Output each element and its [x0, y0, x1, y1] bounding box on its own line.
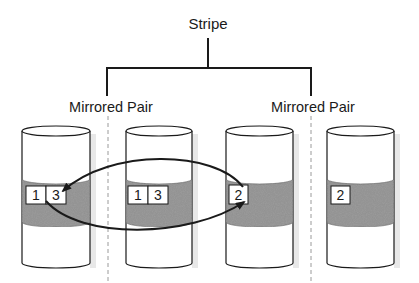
disk-3: 2: [226, 126, 299, 268]
svg-text:3: 3: [52, 187, 60, 203]
disk-top: [226, 126, 293, 136]
mirrored-pair-label-1: Mirrored Pair: [69, 99, 153, 115]
disk-1: 1 3: [22, 126, 96, 268]
block-2: 2: [229, 185, 248, 204]
block-3: 3: [46, 186, 66, 204]
disk-shadow: [394, 134, 400, 268]
disk-top: [327, 126, 394, 136]
svg-text:1: 1: [32, 187, 40, 203]
svg-text:1: 1: [134, 187, 142, 203]
disk-2: 1 3: [126, 126, 198, 268]
mirrored-pair-label-2: Mirrored Pair: [271, 99, 355, 115]
disk-top: [22, 126, 90, 136]
svg-text:3: 3: [154, 187, 162, 203]
disk-top: [126, 126, 192, 136]
block-2: 2: [331, 186, 350, 204]
disk-4: 2: [327, 126, 400, 268]
svg-text:2: 2: [337, 187, 345, 203]
stripe-title: Stripe: [188, 15, 227, 32]
svg-text:2: 2: [235, 187, 243, 203]
raid-diagram: Stripe Mirrored Pair Mirrored Pair 1 3: [0, 0, 419, 283]
disk-shadow: [293, 134, 299, 268]
block-1: 1: [128, 186, 148, 204]
stripe-tree-connector: [107, 38, 311, 96]
disk-shadow: [192, 134, 198, 268]
block-1: 1: [26, 186, 46, 204]
block-3: 3: [148, 186, 168, 204]
disk-shadow: [90, 134, 96, 268]
